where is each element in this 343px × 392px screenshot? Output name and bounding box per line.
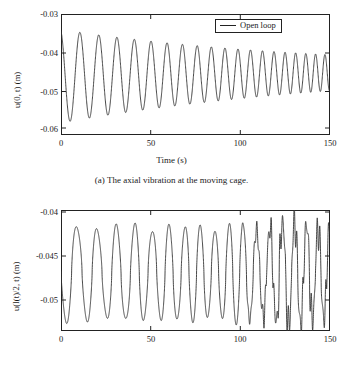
panel-b-chart <box>61 210 330 331</box>
panel-a-ytick-1: -0.04 <box>6 49 58 58</box>
panel-a-ytick-3: -0.06 <box>6 125 58 134</box>
panel-b-ytick-1: -0.045 <box>6 252 58 261</box>
panel-a-chart <box>61 14 330 135</box>
panel-a-y-axis-label: u(0, t) (m) <box>12 72 22 108</box>
panel-a-xtick-3: 150 <box>315 139 343 148</box>
panel-a-caption: (a) The axial vibration at the moving ca… <box>0 175 343 185</box>
panel-a-xtick-1: 50 <box>136 139 166 148</box>
panel-a-xtick-2: 100 <box>225 139 255 148</box>
panel-b-xtick-2: 100 <box>225 335 255 344</box>
panel-a-legend: Open loop <box>215 19 282 33</box>
panel-b-y-axis-label: u(l(t)/2, t) (m) <box>11 261 21 311</box>
panel-a-xtick-0: 0 <box>46 139 76 148</box>
panel-b-ytick-0: -0.04 <box>6 208 58 217</box>
panel-a: -0.03 -0.04 -0.05 -0.06 u(0, t) (m) <box>0 0 343 196</box>
panel-a-axes-frame <box>62 15 330 135</box>
panel-a-plot-area <box>61 14 330 135</box>
panel-a-y-axis: -0.03 -0.04 -0.05 -0.06 <box>0 0 58 196</box>
legend-line-icon <box>220 25 236 26</box>
panel-b-xtick-0: 0 <box>46 335 76 344</box>
panel-b-xtick-1: 50 <box>136 335 166 344</box>
panel-a-ytick-0: -0.03 <box>6 10 58 19</box>
panel-a-x-axis-label: Time (s) <box>0 155 343 165</box>
panel-b-plot-area <box>61 210 330 331</box>
panel-b-xtick-3: 150 <box>315 335 343 344</box>
panel-b: -0.04 -0.045 -0.05 u(l(t)/2, t) (m) <box>0 196 343 392</box>
figure-axial-vibration: -0.03 -0.04 -0.05 -0.06 u(0, t) (m) <box>0 0 343 392</box>
panel-b-y-axis: -0.04 -0.045 -0.05 <box>0 196 58 392</box>
panel-a-legend-label: Open loop <box>240 21 276 30</box>
